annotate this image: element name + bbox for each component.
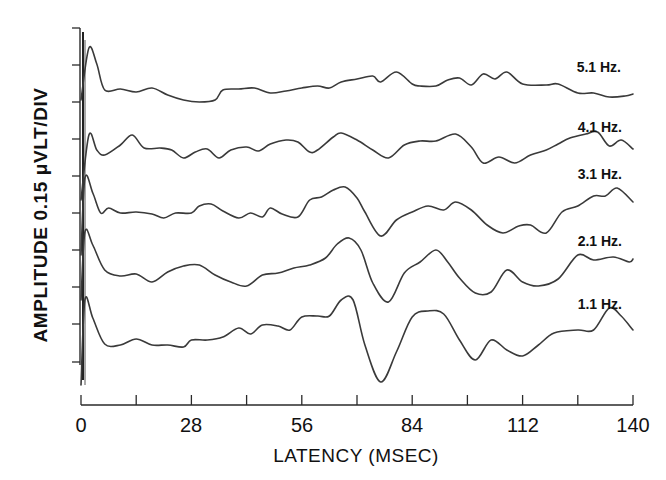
x-tick-label-140: 140 (616, 414, 649, 436)
trace-4-1-hz (81, 131, 633, 200)
trace-2-1-hz (81, 229, 633, 302)
trace-5-1-hz (81, 47, 633, 102)
trace-1-1-hz (81, 296, 633, 385)
y-axis-label: AMPLITUDE 0.15 μVLT/DIV (30, 87, 51, 342)
trace-label: 1.1 Hz. (578, 296, 622, 312)
x-tick-label-112: 112 (507, 414, 539, 436)
x-tick-label-0: 0 (75, 414, 86, 436)
x-tick-labels: 0 28 56 84 112 140 (75, 414, 649, 436)
x-tick-label-84: 84 (401, 414, 423, 436)
x-tick-label-28: 28 (180, 414, 202, 436)
x-ticks (81, 395, 633, 405)
trace-label: 5.1 Hz. (577, 59, 621, 75)
evoked-response-chart: AMPLITUDE 0.15 μVLT/DIV 0 28 56 84 112 1… (0, 0, 666, 480)
trace-label: 2.1 Hz. (578, 233, 622, 249)
trace-label: 3.1 Hz. (578, 166, 622, 182)
y-axis (72, 28, 80, 365)
x-axis-label: LATENCY (MSEC) (273, 445, 439, 466)
x-tick-label-56: 56 (291, 414, 313, 436)
trace-label: 4.1 Hz. (578, 119, 622, 135)
traces (81, 47, 633, 385)
